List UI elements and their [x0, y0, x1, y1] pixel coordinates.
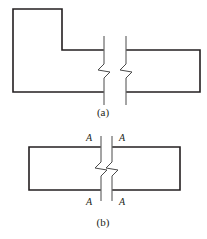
break-line-right-b [106, 136, 118, 201]
stepped-l-body-outline [13, 9, 103, 92]
section-label-top-left: A [85, 132, 93, 143]
break-line-left-b [95, 136, 107, 201]
break-line-left-a [98, 36, 110, 105]
break-line-right-a [120, 36, 132, 105]
caption-a: (a) [97, 106, 110, 119]
engineering-drawing-svg: (a) A A A A (b) [0, 0, 207, 239]
section-label-top-right: A [118, 132, 126, 143]
right-rectangle-outline-b [113, 147, 180, 190]
panel-a: (a) [13, 9, 200, 119]
section-label-bottom-right: A [118, 196, 126, 207]
panel-b: A A A A (b) [29, 132, 180, 229]
left-rectangle-outline-b [29, 147, 100, 190]
figure-sheet: (a) A A A A (b) [0, 0, 207, 239]
right-rectangular-body-outline-a [127, 50, 200, 92]
caption-b: (b) [97, 216, 110, 229]
section-label-bottom-left: A [85, 196, 93, 207]
